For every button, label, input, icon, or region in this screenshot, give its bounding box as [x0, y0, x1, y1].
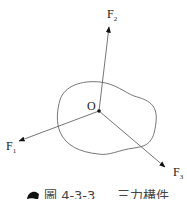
force-f2-name: F [107, 7, 114, 21]
force-f1-arrow [19, 111, 99, 141]
force-f2-arrow [99, 27, 109, 111]
force-f3-label: F3 [173, 166, 183, 181]
point-o-dot [97, 109, 101, 113]
force-f1-label: F1 [6, 140, 16, 155]
force-f2-subscript: 2 [114, 15, 118, 23]
three-force-diagram: O F2 F1 F3 [0, 0, 187, 199]
force-f1-name: F [6, 139, 13, 153]
force-f3-name: F [173, 165, 180, 179]
force-f1-subscript: 1 [13, 147, 17, 155]
force-f2-label: F2 [107, 8, 117, 23]
point-o-text: O [87, 99, 96, 113]
figure-title: 三力構件 [117, 185, 169, 199]
force-f3-subscript: 3 [180, 173, 184, 181]
force-f3-arrow [99, 111, 165, 167]
figure-caption: 圖 4-3-3 三力構件 [26, 185, 169, 199]
point-o-label: O [87, 100, 96, 112]
book-icon [26, 189, 40, 200]
figure-number: 圖 4-3-3 [44, 185, 95, 199]
